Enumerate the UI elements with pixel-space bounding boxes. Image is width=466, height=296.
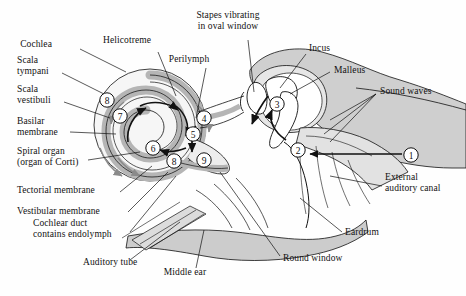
pharynx-contour-3 [236,178,268,228]
step-marker-8b: 8 [167,154,181,168]
svg-text:8: 8 [105,96,110,106]
label-spiral-organ: Spiral organ (organ of Corti) [17,146,79,168]
svg-text:8: 8 [172,157,177,167]
svg-text:9: 9 [202,156,207,166]
label-sound-waves: Sound waves [380,86,432,97]
svg-text:3: 3 [275,100,280,110]
step-marker-9: 9 [197,153,211,167]
label-tectorial-membrane: Tectorial membrane [17,185,95,196]
label-scala-tympani: Scala tympani [17,55,49,77]
label-auditory-tube: Auditory tube [83,257,137,268]
step-marker-1: 1 [404,148,418,162]
canal-contour-a [300,150,306,214]
label-middle-ear: Middle ear [164,267,206,278]
step-marker-5: 5 [186,127,200,141]
label-basilar-membrane: Basilar membrane [17,116,58,138]
label-round-window: Round window [283,253,343,264]
label-external-auditory-canal: External auditory canal [385,172,440,194]
step-marker-6: 6 [146,141,160,155]
label-eardrum: Eardrum [345,227,379,238]
svg-text:7: 7 [118,112,123,122]
step-marker-3: 3 [270,97,284,111]
svg-text:2: 2 [296,146,301,156]
label-malleus: Malleus [334,65,365,76]
label-stapes-oval-window: Stapes vibrating in oval window [196,10,259,32]
label-cochlea: Cochlea [20,39,52,50]
svg-text:5: 5 [191,130,196,140]
leader-cochlea [80,49,126,72]
label-vestibular-membrane: Vestibular membrane [17,206,100,217]
label-incus: Incus [309,43,330,54]
step-marker-8a: 8 [100,93,114,107]
svg-text:4: 4 [202,114,207,124]
label-perilymph: Perilymph [169,54,209,65]
step-marker-7: 7 [113,109,127,123]
label-scala-vestibuli: Scala vestibuli [17,84,51,106]
leader-scala-tympani [62,73,104,94]
label-cochlear-duct: Cochlear duct contains endolymph [33,218,112,240]
step-marker-2: 2 [291,143,305,157]
ear-anatomy-figure: 1 2 3 4 5 6 7 [0,0,466,296]
step-marker-4: 4 [197,111,211,125]
label-helicotreme: Helicotreme [103,35,151,46]
svg-text:6: 6 [151,144,156,154]
svg-text:1: 1 [409,151,414,161]
